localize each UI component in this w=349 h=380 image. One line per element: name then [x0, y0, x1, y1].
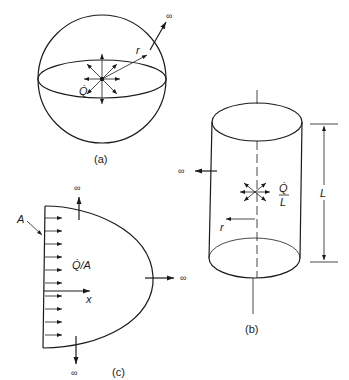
panel-c-plane: Q̇/A x A ∞ ∞ ∞ (c) [16, 183, 186, 378]
infinity-right-label: ∞ [180, 273, 186, 283]
area-label: A [16, 213, 24, 225]
plane-surface [43, 206, 45, 348]
caption-c: (c) [112, 366, 125, 378]
x-axis-label: x [85, 293, 92, 305]
caption-a: (a) [94, 153, 107, 165]
cylinder-bottom-back [209, 238, 300, 258]
source-per-length-den: L [280, 196, 286, 208]
source-per-length-num: Q̇ [279, 182, 288, 194]
line-source-arrows-icon [240, 183, 270, 201]
panel-b-cylinder: Q̇ L r ∞ L (b) [178, 90, 338, 335]
flux-arrows-icon [45, 218, 62, 335]
caption-b: (b) [245, 323, 258, 335]
area-pointer [27, 221, 42, 235]
infinity-label-left: ∞ [178, 166, 184, 176]
infinity-bottom-label: ∞ [71, 368, 77, 378]
radius-label: r [136, 44, 141, 56]
medium-boundary [43, 206, 153, 348]
cylinder-right-side [300, 122, 302, 258]
infinity-top-label: ∞ [74, 183, 80, 193]
cylinder-top [212, 103, 302, 141]
cylinder-left-side [209, 122, 212, 258]
radius-label-b: r [220, 221, 225, 233]
length-label: L [320, 187, 326, 199]
cylinder-bottom-front [209, 258, 300, 278]
infinity-arrow [150, 22, 166, 50]
flux-label: Q̇/A [72, 259, 91, 271]
infinity-label: ∞ [166, 11, 172, 21]
source-label: Q̇ [79, 85, 88, 97]
panel-a-sphere: r ∞ Q̇ (a) [38, 11, 172, 165]
radius-line [102, 55, 147, 79]
heat-source-diagram: r ∞ Q̇ (a) Q̇ L r ∞ [0, 0, 349, 380]
